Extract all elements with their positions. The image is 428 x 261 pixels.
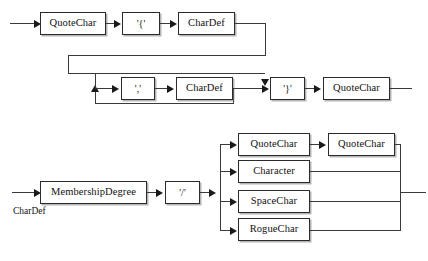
exit-line-bottom (400, 192, 426, 193)
node-slash[interactable]: '/' (165, 181, 200, 204)
loop-return-up (95, 92, 96, 103)
arrow-into-fanout (209, 189, 216, 197)
wrap-line-top-out (235, 23, 266, 24)
merge-line-character (310, 171, 401, 172)
entry-line-bottom (12, 192, 36, 193)
arrow-into-brace-open (114, 20, 121, 28)
merge-spine (400, 144, 401, 230)
merge-line-roguechar (310, 230, 401, 231)
node-brace-open[interactable]: '{' (122, 12, 160, 35)
loop-return-down (233, 88, 234, 103)
node-quotechar-close[interactable]: QuoteChar (323, 77, 390, 100)
arrow-into-branch-quotechar (230, 141, 237, 149)
node-chardef-repeat[interactable]: CharDef (176, 77, 233, 100)
node-chardef-first[interactable]: CharDef (178, 12, 235, 35)
wrap-line-top-down (265, 23, 266, 55)
arrow-into-branch-spacechar (230, 198, 237, 206)
arrow-into-chardef-first (170, 20, 177, 28)
arrow-into-comma (112, 85, 119, 93)
loop-return-line (95, 103, 234, 104)
arrow-into-chardef-repeat (167, 85, 174, 93)
node-quotechar-open[interactable]: QuoteChar (40, 12, 106, 35)
node-branch-quotechar-second[interactable]: QuoteChar (328, 133, 395, 156)
entry-line-top (10, 23, 36, 24)
arrow-into-slash (156, 189, 163, 197)
node-branch-spacechar[interactable]: SpaceChar (238, 190, 310, 213)
wrap-line-return (68, 55, 266, 56)
wrap-line-down-left (68, 55, 69, 73)
arrow-into-brace-close (262, 85, 269, 93)
arrow-into-branch-character (230, 168, 237, 176)
node-branch-roguechar[interactable]: RogueChar (238, 218, 310, 241)
node-branch-character[interactable]: Character (238, 160, 310, 183)
arrow-into-branch-quotechar-second (319, 141, 326, 149)
arrow-into-quotechar-close (314, 85, 321, 93)
railroad-diagram-canvas: QuoteChar '{' CharDef ',' CharDef '}' Qu… (0, 0, 428, 261)
bypass-line-to-close (68, 73, 265, 74)
branch-into-comma-down (95, 73, 96, 88)
node-branch-quotechar[interactable]: QuoteChar (238, 133, 310, 156)
arrow-into-branch-roguechar (230, 227, 237, 235)
rule-caption-chardef: CharDef (13, 206, 46, 216)
merge-line-spacechar (310, 201, 401, 202)
node-brace-close[interactable]: '}' (270, 77, 305, 100)
exit-line-top (390, 88, 412, 89)
branch-into-comma (95, 88, 113, 89)
node-comma[interactable]: ',' (121, 77, 155, 100)
node-membershipdegree[interactable]: MembershipDegree (40, 181, 147, 204)
fanout-spine (220, 144, 221, 230)
